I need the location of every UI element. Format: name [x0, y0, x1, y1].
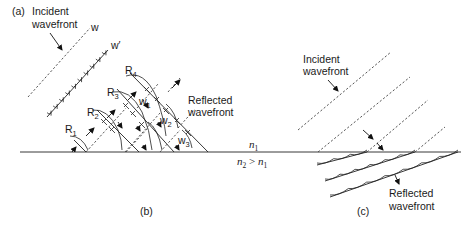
n2-gt-n1-label: n2 > n1: [237, 155, 267, 170]
reflected-wavefront-b-label-line1: Reflected: [188, 94, 233, 106]
w-prime-label: w′: [110, 39, 121, 51]
wavefront-w-prime: [47, 50, 108, 117]
reflected-wavefront-c-label-line2: wavefront: [388, 200, 435, 212]
wavelet-arcs-c: [317, 150, 458, 195]
n1-label: n1: [249, 138, 259, 153]
incident-wavefront-c-arrow: [328, 80, 338, 91]
reflected-wavefront-b-label-line2: wavefront: [187, 106, 234, 118]
huygens-reflection-figure: (a) Incident wavefront w w′: [0, 0, 473, 227]
incident-arrow-c-1: [363, 130, 373, 139]
wavefront-R1: [74, 140, 86, 152]
R4-label: R4: [125, 64, 137, 79]
panel-b-label: (b): [140, 205, 153, 217]
arrow-R3-up: [128, 92, 136, 100]
panel-a-label: (a): [12, 5, 25, 17]
reflected-arrow-c: [395, 175, 399, 184]
w-label: w: [90, 21, 99, 33]
R2-label: R2: [87, 106, 99, 121]
reflected-wavefront-c-label-line1: Reflected: [389, 187, 434, 199]
arrow-R2-up: [107, 110, 115, 118]
incident-wavefront-c-label-line2: wavefront: [302, 65, 349, 77]
arrow-reflected-b: [172, 80, 180, 88]
incident-arrow-c-2: [377, 143, 383, 150]
incident-wavefront-a-label-line2: wavefront: [31, 18, 78, 30]
incident-wavefront-c-label-line1: Incident: [303, 53, 340, 65]
arrow-down-1: [118, 122, 122, 128]
arrow-R1: [72, 147, 76, 152]
incident-wavefront-a-label-line1: Incident: [32, 5, 69, 17]
panel-c-label: (c): [357, 205, 369, 217]
incident-wavefront-a-arrow: [50, 33, 62, 50]
arrow-R1-up: [86, 128, 94, 136]
wavefront-w: [28, 28, 90, 97]
arrow-down-2: [137, 126, 140, 131]
arrow-down-3: [143, 145, 146, 150]
R3-label: R3: [107, 86, 119, 101]
